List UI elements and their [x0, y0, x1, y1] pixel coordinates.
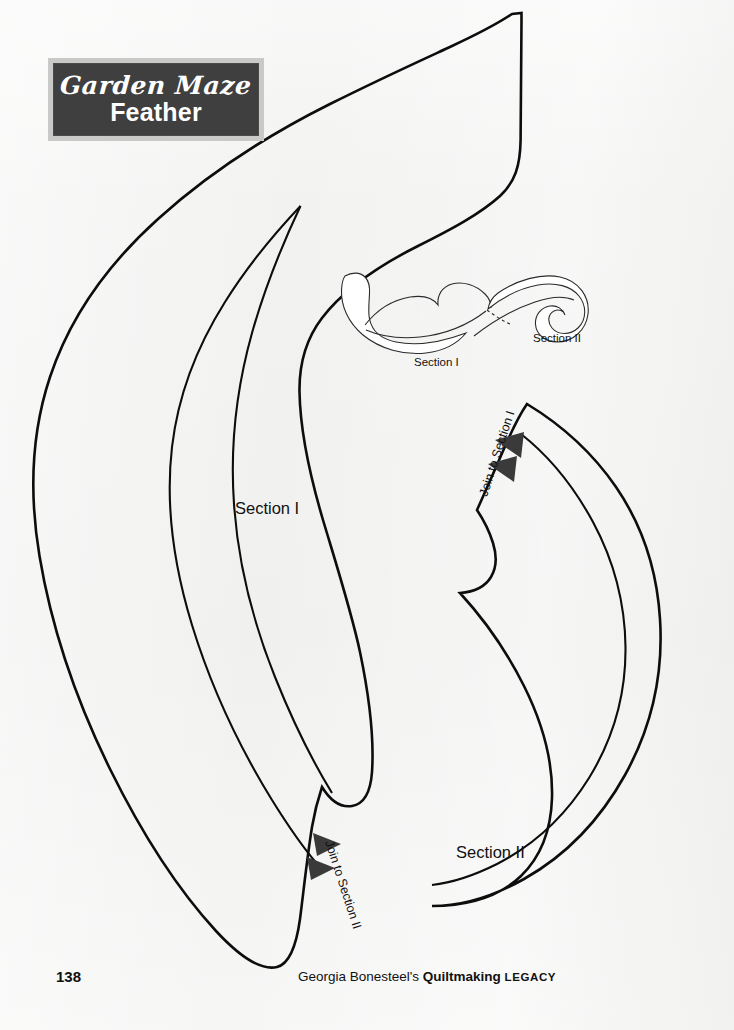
- page-footer: 138 Georgia Bonesteel's Quiltmaking LEGA…: [0, 968, 734, 998]
- section-one-inner-line-1: [170, 206, 318, 865]
- assembly-label-section-two: Section II: [533, 332, 581, 344]
- footer-credit-prefix: Georgia Bonesteel's: [298, 969, 423, 984]
- footer-credit-title: Quiltmaking: [423, 969, 501, 984]
- section-one-template: Section I Join to Section II: [33, 13, 521, 968]
- title-plaque: Garden Maze Feather: [48, 58, 264, 141]
- footer-credit-legacy: LEGACY: [505, 971, 557, 983]
- section-one-label: Section I: [235, 499, 299, 517]
- pattern-artwork: Section I Join to Section II Section II …: [0, 0, 734, 1030]
- title-plaque-panel: Garden Maze Feather: [53, 63, 259, 136]
- title-main-line: Feather: [110, 98, 202, 126]
- footer-credit: Georgia Bonesteel's Quiltmaking LEGACY: [0, 969, 734, 984]
- assembly-section-two-inner-line: [474, 297, 574, 336]
- section-two-join-label: Join to Section I: [477, 409, 518, 498]
- pattern-page: Section I Join to Section II Section II …: [0, 0, 734, 1030]
- assembly-inner-curve: [366, 311, 486, 338]
- assembly-diagram: Section I Section II: [341, 273, 588, 368]
- section-two-label: Section II: [456, 843, 525, 861]
- section-one-join-label: Join to Section II: [322, 839, 364, 931]
- title-script-line: Garden Maze: [59, 73, 252, 99]
- assembly-section-one-shape: [341, 273, 466, 353]
- assembly-plume-lobes: [365, 283, 491, 325]
- assembly-join-seam: [487, 310, 512, 325]
- assembly-label-section-one: Section I: [414, 356, 459, 368]
- section-two-template: Section II Join to Section I: [432, 404, 661, 906]
- section-one-outline: [33, 13, 521, 968]
